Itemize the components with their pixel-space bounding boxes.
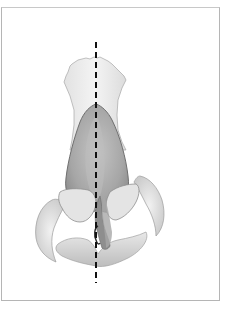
left-lower-lateral-cartilage: [59, 189, 96, 222]
nose-anatomy-illustration: [0, 0, 228, 319]
right-alar-rim: [134, 176, 164, 236]
